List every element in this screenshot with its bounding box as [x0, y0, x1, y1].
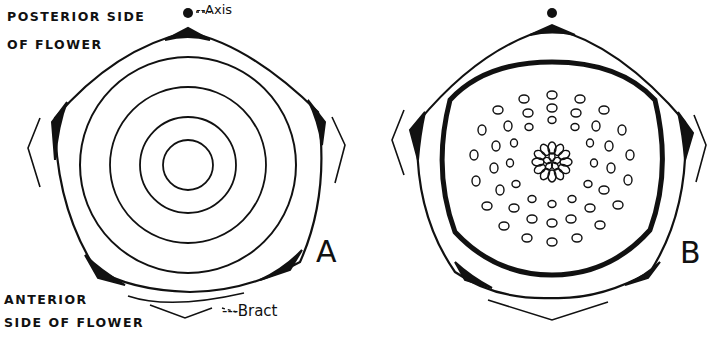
- sepal-tip-right-a: [308, 100, 325, 145]
- axis-label: --Axis: [196, 2, 232, 17]
- sepal-tip-top-a: [165, 28, 210, 40]
- whorl-2-a: [140, 117, 236, 213]
- bracteole-left-b: [392, 110, 404, 175]
- whorl-4-a: [80, 57, 296, 273]
- bracteole-right-a: [332, 117, 345, 183]
- sepal-tip-bl-a: [85, 255, 125, 285]
- panel-label-b: B: [680, 238, 701, 268]
- diagram-a: [28, 8, 345, 318]
- whorl-1-a: [163, 140, 213, 190]
- posterior-label-line1: POSTERIOR SIDE: [7, 10, 145, 24]
- anterior-label-line1: ANTERIOR: [4, 293, 144, 307]
- anterior-label-line2: SIDE OF FLOWER: [4, 316, 144, 330]
- carpel-rosette: [532, 142, 572, 182]
- posterior-label: POSTERIOR SIDE OF FLOWER: [7, 10, 145, 52]
- panel-label-a: A: [316, 237, 337, 267]
- sepal-tip-left-a: [52, 102, 67, 160]
- bract-b: [488, 300, 608, 320]
- stamens-b: [470, 91, 634, 246]
- sepal-tip-top-b: [530, 25, 575, 35]
- anterior-label: ANTERIOR SIDE OF FLOWER: [4, 293, 144, 330]
- axis-dot-b: [547, 8, 557, 18]
- whorl-3-a: [110, 87, 266, 243]
- sepal-tip-br-b: [625, 262, 660, 285]
- sepal-tip-left-b: [410, 112, 425, 160]
- bracteole-right-b: [694, 115, 706, 182]
- diagram-b: [392, 8, 706, 320]
- perianth-outline-a: [55, 32, 321, 292]
- bract-label: ---Bract: [222, 302, 277, 320]
- stamen-ring-outer: [470, 91, 634, 246]
- axis-dot-a: [183, 8, 193, 18]
- bracteole-left-a: [28, 118, 40, 187]
- stamen-ring-inner: [507, 117, 598, 208]
- posterior-label-line2: OF FLOWER: [7, 38, 145, 52]
- sepal-tip-right-b: [678, 112, 693, 160]
